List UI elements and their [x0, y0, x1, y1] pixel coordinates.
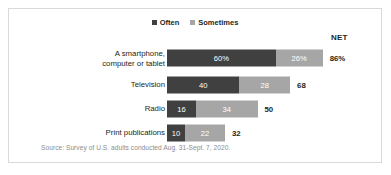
table-row: A smartphone, computer or tablet 60% 26%… [9, 43, 381, 73]
chart-figure: Often Sometimes NET A smartphone, comput… [8, 8, 382, 163]
legend-label-sometimes: Sometimes [198, 19, 238, 27]
bar-segment-sometimes: 34 [196, 101, 258, 118]
bar-smartphone: 60% 26% 86% [167, 50, 323, 67]
table-row: Radio 16 34 50 [9, 97, 381, 121]
net-value-radio: 50 [265, 105, 274, 114]
row-label-line1: Print publications [45, 128, 165, 138]
bar-value-often: 10 [172, 129, 180, 137]
row-label-smartphone: A smartphone, computer or tablet [45, 49, 165, 68]
row-label-radio: Radio [45, 104, 165, 114]
bar-value-often: 40 [199, 81, 207, 89]
bar-segment-often: 60% [167, 50, 276, 67]
bar-value-sometimes: 22 [201, 129, 209, 137]
legend-item-often: Often [152, 19, 180, 27]
legend-swatch-often-icon [152, 20, 157, 25]
net-value-smartphone: 86% [330, 54, 346, 63]
bar-value-sometimes: 28 [261, 81, 269, 89]
bar-value-often: 60% [214, 54, 229, 62]
table-row: Print publications 10 22 32 [9, 121, 381, 145]
legend-label-often: Often [160, 19, 180, 27]
table-row: Television 40 28 68 [9, 73, 381, 97]
bar-value-sometimes: 26% [292, 54, 307, 62]
row-label-television: Television [45, 80, 165, 90]
row-label-line1: Television [45, 80, 165, 90]
bar-segment-often: 10 [167, 125, 185, 142]
net-value-television: 68 [297, 81, 306, 90]
row-label-line1: Radio [45, 104, 165, 114]
bar-segment-sometimes: 28 [239, 77, 290, 94]
bar-radio: 16 34 50 [167, 101, 258, 118]
legend-item-sometimes: Sometimes [190, 19, 238, 27]
bar-segment-sometimes: 22 [185, 125, 225, 142]
legend-swatch-sometimes-icon [190, 20, 195, 25]
net-column-header: NET [331, 33, 383, 42]
row-label-line2: computer or tablet [45, 58, 165, 68]
bar-segment-often: 40 [167, 77, 239, 94]
chart-plot-area: A smartphone, computer or tablet 60% 26%… [9, 43, 381, 145]
bar-segment-often: 16 [167, 101, 196, 118]
bar-print-publications: 10 22 32 [167, 125, 225, 142]
chart-legend: Often Sometimes [9, 19, 381, 27]
row-label-line1: A smartphone, [45, 49, 165, 59]
source-note: Source: Survey of U.S. adults conducted … [41, 144, 230, 151]
row-label-print: Print publications [45, 128, 165, 138]
bar-segment-sometimes: 26% [276, 50, 323, 67]
bar-value-sometimes: 34 [223, 105, 231, 113]
bar-value-often: 16 [177, 105, 185, 113]
bar-television: 40 28 68 [167, 77, 290, 94]
net-value-print-publications: 32 [232, 129, 241, 138]
